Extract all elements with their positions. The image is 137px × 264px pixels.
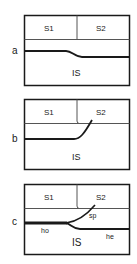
panel-c-is-label: IS xyxy=(72,237,82,248)
panel-c: c S1 S2 sp ho he IS xyxy=(12,185,130,255)
panel-b-label: b xyxy=(12,133,18,144)
panel-b-interface-line xyxy=(25,120,93,139)
panel-c-s2-label: S2 xyxy=(96,193,106,202)
panel-c-s1-s2-divider xyxy=(77,185,80,209)
panel-b-s1-s2-divider xyxy=(77,100,80,124)
panel-b-s2-label: S2 xyxy=(96,108,106,117)
panel-b-s1-label: S1 xyxy=(44,108,54,117)
panel-b: b S1 S2 IS xyxy=(12,100,130,170)
panel-a-label: a xyxy=(12,45,18,56)
panel-a-is-label: IS xyxy=(72,68,81,78)
panel-b-is-label: IS xyxy=(72,152,81,162)
panel-a-s1-label: S1 xyxy=(44,24,54,33)
panel-c-label: c xyxy=(12,216,17,227)
panel-a-interface-line xyxy=(25,51,130,57)
panel-a-s2-label: S2 xyxy=(96,24,106,33)
panel-c-he-annotation: he xyxy=(106,233,114,240)
panel-c-he-line xyxy=(66,223,130,229)
panel-c-ho-annotation: ho xyxy=(41,227,49,234)
panel-a: a S1 S2 IS xyxy=(12,16,130,86)
panel-c-s1-label: S1 xyxy=(44,193,54,202)
panel-c-sp-annotation: sp xyxy=(89,212,97,220)
diagram-canvas: a S1 S2 IS b S1 S2 IS c S1 S2 sp ho he I… xyxy=(0,0,137,264)
